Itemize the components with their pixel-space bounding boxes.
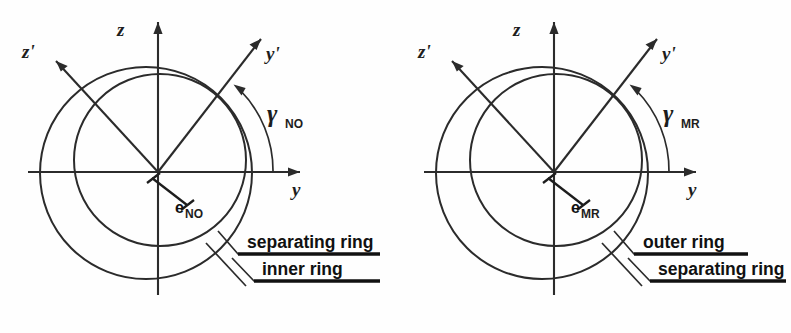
right-y-label: y: [686, 179, 697, 200]
left-callout-leader-inner: [206, 243, 246, 286]
panel-right: z z' y y' γ MR e MR outer ring separatin…: [417, 19, 786, 295]
left-z-axis-arrowhead: [153, 22, 162, 34]
right-gamma-symbol: γ: [663, 100, 674, 127]
left-gamma-symbol: γ: [267, 100, 278, 127]
right-y-prime-arrowhead: [646, 39, 658, 50]
left-gamma-subscript: NO: [285, 117, 303, 131]
right-y-axis-arrowhead: [684, 167, 696, 176]
left-callout-label-1: separating ring: [247, 232, 373, 252]
figure-canvas: z z' y y' γ NO e NO separating ring inne…: [0, 0, 791, 333]
left-inner-circle: [74, 74, 246, 246]
right-callout-label-1: outer ring: [643, 232, 725, 252]
right-z-prime-axis: [452, 61, 554, 172]
right-z-prime-arrowhead: [452, 61, 464, 72]
left-e-subscript: NO: [185, 207, 203, 221]
right-y-prime-label: y': [660, 43, 676, 64]
right-z-label: z: [512, 19, 521, 40]
panel-left: z z' y y' γ NO e NO separating ring inne…: [21, 19, 380, 295]
left-z-prime-axis: [56, 61, 158, 172]
right-e-subscript: MR: [581, 207, 600, 221]
right-callout-leader-inner: [602, 243, 642, 286]
left-z-prime-label: z': [21, 41, 35, 62]
left-z-label: z: [116, 19, 125, 40]
eccentric-ring-diagram: z z' y y' γ NO e NO separating ring inne…: [0, 0, 791, 333]
right-z-prime-label: z': [417, 41, 431, 62]
left-z-prime-arrowhead: [56, 61, 68, 72]
right-e-symbol: e: [571, 199, 580, 216]
left-y-label: y: [290, 179, 301, 200]
left-y-prime-arrowhead: [250, 39, 262, 50]
left-y-axis-arrowhead: [288, 167, 300, 176]
left-y-prime-label: y': [264, 43, 280, 64]
right-callout-label-2: separating ring: [658, 259, 784, 279]
right-gamma-subscript: MR: [681, 117, 700, 131]
left-e-symbol: e: [175, 199, 184, 216]
right-inner-circle: [470, 74, 642, 246]
left-callout-label-2: inner ring: [262, 259, 343, 279]
right-z-axis-arrowhead: [549, 22, 558, 34]
